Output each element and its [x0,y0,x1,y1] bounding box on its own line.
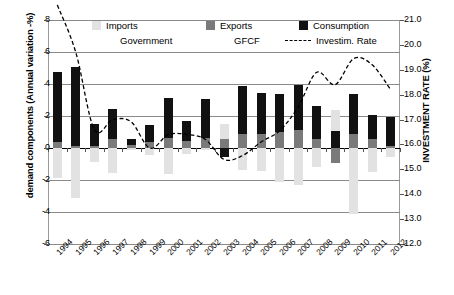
legend-swatch-consumption [299,21,308,30]
y-axis-right-tickmark [400,144,404,145]
y-axis-left-tickmark [44,20,48,21]
y-axis-left-tickmark [44,148,48,149]
legend-item-imports: Imports [92,20,138,31]
y-axis-right-tick-label: 14.0 [404,188,438,198]
legend-row-1: Imports Exports Consumption [92,20,392,34]
y-axis-right-tickmark [400,219,404,220]
y-axis-right-tick-label: 18.0 [404,89,438,99]
y-axis-right-tickmark [400,95,404,96]
y-axis-right-tick-label: 19.0 [404,64,438,74]
legend-item-exports: Exports [206,20,252,31]
legend-label-consumption: Consumption [313,20,369,31]
y-axis-right-tick-label: 20.0 [404,39,438,49]
y-axis-right-tick-label: 12.0 [404,238,438,248]
y-axis-right-tickmark [400,194,404,195]
investment-rate-line [48,20,400,244]
legend-label-gfcf: GFCF [234,35,260,46]
legend-row-2: Government GFCF Investim. Rate [92,35,392,49]
legend-item-investment-rate: Investim. Rate [285,35,377,46]
chart-container: demand components (Annual variation -%) … [0,0,454,295]
legend-item-gfcf: GFCF [220,35,260,46]
legend-swatch-gfcf [220,36,229,45]
y-axis-left-tickmark [44,180,48,181]
y-axis-left-tick-label: 2 [24,110,50,120]
legend-dashed-line-icon [285,40,311,41]
y-axis-left-tick-label: -6 [24,238,50,248]
y-axis-left-tickmark [44,212,48,213]
y-axis-right-tickmark [400,120,404,121]
legend-label-government: Government [120,35,172,46]
legend-label-imports: Imports [106,20,138,31]
y-axis-right-tick-label: 21.0 [404,14,438,24]
legend-item-consumption: Consumption [299,20,369,31]
y-axis-right-tickmark [400,20,404,21]
y-axis-left-tick-label: -4 [24,206,50,216]
y-axis-left-tickmark [44,116,48,117]
y-axis-left-tick-label: -2 [24,174,50,184]
y-axis-left-tick-label: 4 [24,78,50,88]
y-axis-right-tick-label: 16.0 [404,138,438,148]
y-axis-left-tick-label: 6 [24,46,50,56]
y-axis-right-tick-label: 15.0 [404,163,438,173]
y-axis-left-tickmark [44,52,48,53]
legend-swatch-imports [92,21,101,30]
plot-area [48,20,400,244]
y-axis-left-tick-label: 0 [24,142,50,152]
y-axis-right-tick-label: 17.0 [404,114,438,124]
legend-label-investment-rate: Investim. Rate [316,35,377,46]
legend-swatch-exports [206,21,215,30]
y-axis-left-tick-label: 8 [24,14,50,24]
y-axis-left-tickmark [44,84,48,85]
legend-label-exports: Exports [220,20,252,31]
y-axis-left-tickmark [44,244,48,245]
y-axis-right-tickmark [400,70,404,71]
legend-item-government: Government [106,35,172,46]
chart-legend: Imports Exports Consumption Government G… [92,20,392,50]
y-axis-right-tickmark [400,169,404,170]
y-axis-right-tickmark [400,45,404,46]
x-axis-tickmark [400,148,401,152]
legend-swatch-government [106,36,115,45]
y-axis-right-tick-label: 13.0 [404,213,438,223]
